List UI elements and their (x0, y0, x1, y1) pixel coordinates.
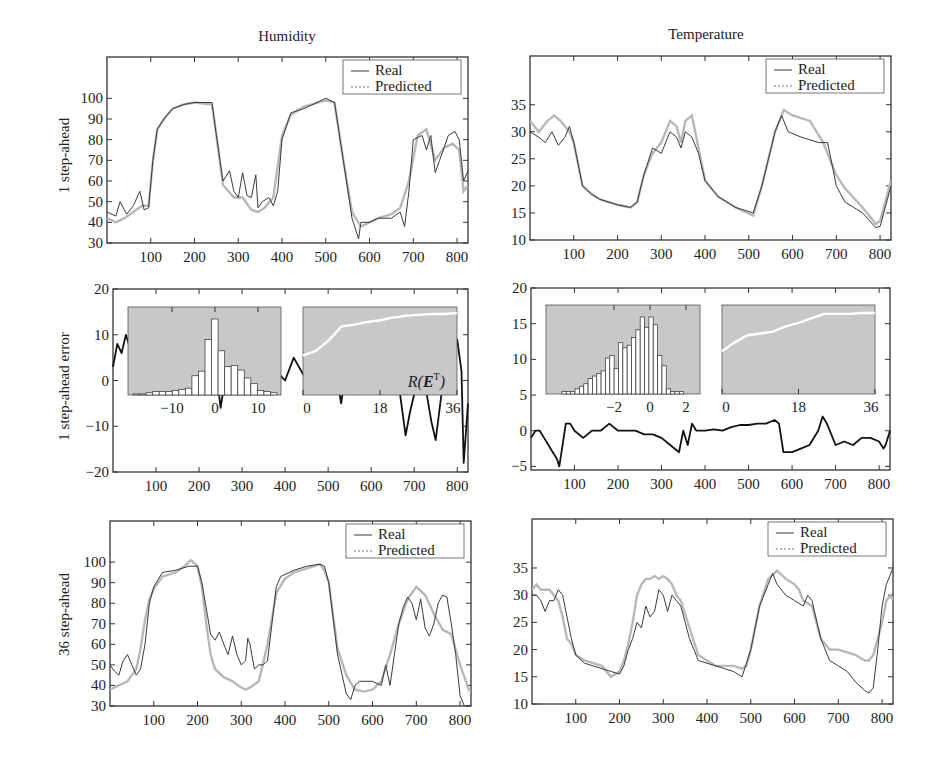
histogram-bar (133, 394, 140, 395)
x-tick-label: 400 (274, 712, 297, 728)
y-tick-label: 35 (511, 97, 526, 113)
y-tick-label: 20 (511, 178, 526, 194)
histogram-bar (264, 392, 271, 395)
histogram-bar (662, 366, 666, 394)
x-tick-label: 700 (405, 712, 428, 728)
x-tick-label: 300 (650, 246, 673, 262)
histogram-bar (566, 391, 570, 394)
y-tick-label: 0 (102, 373, 110, 389)
x-tick-label: 500 (737, 476, 760, 492)
histogram-bar (653, 325, 657, 394)
x-tick-label: 400 (696, 710, 719, 726)
histogram-bar (649, 317, 653, 394)
autocorrelation-label: R(ET) (407, 371, 445, 391)
y-tick-label: 15 (511, 205, 526, 221)
y-tick-label: −20 (86, 464, 109, 480)
inset-tick-label: 2 (682, 399, 690, 415)
legend-predicted-label: Predicted (378, 542, 435, 558)
histogram-bar (251, 384, 258, 395)
legend-real-label: Real (798, 61, 826, 77)
x-tick-label: 600 (361, 712, 384, 728)
x-tick-label: 100 (140, 249, 163, 265)
x-tick-label: 200 (606, 246, 629, 262)
histogram-bar (179, 389, 186, 395)
chart-humidity-error: 100200300400500600700800−20−1001020−1001… (86, 281, 469, 494)
x-tick-label: 400 (694, 476, 717, 492)
y-tick-label: 20 (512, 280, 527, 296)
histogram-bar (192, 376, 199, 395)
histogram-bar (231, 366, 238, 395)
histogram-bar (601, 371, 605, 394)
histogram-bar (584, 384, 588, 394)
x-tick-label: 100 (145, 478, 168, 494)
x-tick-label: 800 (869, 246, 892, 262)
histogram-bar (618, 343, 622, 394)
x-tick-label: 800 (446, 478, 469, 494)
y-tick-label: 30 (513, 587, 528, 603)
y-tick-label: 30 (88, 235, 103, 251)
y-tick-label: 90 (91, 575, 106, 591)
x-tick-label: 400 (271, 249, 294, 265)
x-tick-label: 100 (143, 712, 166, 728)
x-tick-label: 100 (565, 710, 588, 726)
y-tick-label: 90 (88, 111, 103, 127)
y-tick-label: 25 (511, 151, 526, 167)
histogram-bar (225, 367, 232, 395)
x-tick-label: 300 (652, 710, 675, 726)
real-line (107, 98, 468, 239)
inset-frame (722, 305, 875, 394)
legend-real-label: Real (378, 526, 406, 542)
x-tick-label: 500 (317, 478, 340, 494)
legend-real-label: Real (800, 524, 828, 540)
legend-real-label: Real (375, 62, 403, 78)
histogram-bar (623, 348, 627, 394)
x-tick-label: 300 (650, 476, 673, 492)
y-tick-label: −5 (511, 458, 527, 474)
y-tick-label: 5 (520, 387, 528, 403)
histogram-bar (592, 376, 596, 394)
x-tick-label: 600 (358, 249, 381, 265)
y-tick-label: 30 (91, 698, 106, 714)
x-tick-label: 800 (871, 710, 894, 726)
x-tick-label: 700 (403, 478, 426, 494)
histogram-bar (562, 391, 566, 394)
y-tick-label: 80 (91, 595, 106, 611)
real-line (532, 568, 893, 693)
histogram-inset: −10010 (128, 307, 281, 416)
predicted-line (107, 100, 468, 226)
y-tick-label: 40 (88, 214, 103, 230)
chart-temperature-error: 100200300400500600700800−505101520−20201… (511, 280, 890, 492)
y-tick-label: −10 (86, 418, 109, 434)
inset-tick-label: 36 (864, 399, 880, 415)
x-tick-label: 700 (827, 710, 850, 726)
inset-tick-label: 0 (303, 400, 311, 416)
y-tick-label: 60 (88, 173, 103, 189)
x-tick-label: 500 (738, 246, 761, 262)
histogram-bar (610, 356, 614, 395)
y-tick-label: 30 (511, 124, 526, 140)
histogram-bar (675, 391, 679, 394)
inset-tick-label: 0 (722, 399, 730, 415)
histogram-bar (153, 392, 160, 395)
histogram-bar (257, 390, 264, 395)
legend-predicted-label: Predicted (375, 78, 432, 94)
histogram-bar (185, 388, 192, 395)
y-tick-label: 50 (91, 657, 106, 673)
x-tick-label: 600 (360, 478, 383, 494)
histogram-bar (172, 390, 179, 395)
histogram-bar (614, 368, 618, 394)
histogram-bar (579, 386, 583, 394)
y-tick-label: 70 (91, 616, 106, 632)
x-tick-label: 700 (825, 246, 848, 262)
x-tick-label: 200 (607, 476, 630, 492)
x-tick-label: 400 (694, 246, 717, 262)
chart-temperature-36-step: 100200300400500600700800101520253035Real… (513, 519, 893, 726)
y-tick-label: 15 (513, 669, 528, 685)
histogram-bar (605, 358, 609, 394)
chart-humidity-36-step: 1002003004005006007008003040506070809010… (84, 521, 472, 728)
real-line (110, 564, 471, 706)
inset-tick-label: 36 (446, 400, 462, 416)
histogram-bar (575, 389, 579, 394)
y-tick-label: 50 (88, 194, 103, 210)
histogram-bar (597, 373, 601, 394)
